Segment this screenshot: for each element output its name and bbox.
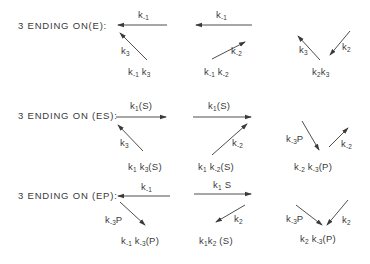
rate-e-c1-diag: k3 xyxy=(121,46,130,58)
rate-ep-c2-top: k1 S xyxy=(213,180,231,192)
product-es-c2: k1 k-2(S) xyxy=(198,162,234,174)
rate-es-c1-top: k1(S) xyxy=(130,101,152,113)
row-label-ep: 3 ENDING ON (EP): xyxy=(18,191,118,201)
product-ep-c1: k-1 k-3(P) xyxy=(121,236,159,248)
rate-e-c3-right: k2 xyxy=(342,42,351,54)
rate-es-c3-right: k-2 xyxy=(341,139,352,151)
rate-e-c1-top: k-1 xyxy=(138,10,149,22)
product-ep-c2: k1k2 (S) xyxy=(199,236,233,248)
rate-es-c3-left: k-3P xyxy=(286,134,303,146)
rate-e-c2-diag: k-2 xyxy=(231,46,242,58)
mechanism-diagram: 3 ENDING ON(E): 3 ENDING ON (ES): 3 ENDI… xyxy=(0,0,370,264)
arrow-ep-c1-diag xyxy=(120,202,145,225)
rate-es-c2-top: k1(S) xyxy=(208,101,230,113)
rate-e-c3-left: k3 xyxy=(299,45,308,57)
rate-es-c1-diag: k3 xyxy=(120,138,129,150)
row-label-e: 3 ENDING ON(E): xyxy=(18,21,107,31)
product-e-c1: k-1 k3 xyxy=(128,67,150,79)
row-label-es: 3 ENDING ON (ES): xyxy=(18,111,118,121)
rate-ep-c1-top: k-1 xyxy=(141,182,152,194)
rate-ep-c2-diag: k2 xyxy=(234,214,243,226)
rate-ep-c3-left: k-3P xyxy=(286,214,303,226)
product-e-c2: k-1 k-2 xyxy=(204,67,229,79)
rate-ep-c1-diag: k-3P xyxy=(105,215,122,227)
arrows-layer xyxy=(0,0,370,264)
rate-e-c2-top: k-1 xyxy=(216,10,227,22)
arrow-es-c3-left xyxy=(302,121,319,150)
rate-ep-c3-right: k2 xyxy=(342,215,351,227)
product-es-c1: k1 k3(S) xyxy=(128,162,162,174)
product-ep-c3: k2 k-3(P) xyxy=(300,234,336,246)
rate-es-c2-diag: k-2 xyxy=(232,138,243,150)
product-es-c3: k-2 k-3(P) xyxy=(294,162,332,174)
product-e-c3: k2k3 xyxy=(312,67,329,79)
